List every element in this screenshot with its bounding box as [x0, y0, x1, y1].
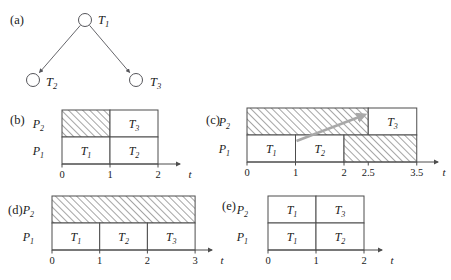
- axis-tick-label: 0: [265, 255, 270, 266]
- axis-tick-label: 1: [97, 255, 102, 266]
- task-node-label: T2: [46, 75, 58, 91]
- axis-tick-label: 2: [155, 169, 160, 180]
- processor-label-p1: P1: [218, 142, 230, 158]
- axis-variable-label: t: [390, 254, 394, 266]
- processor-label-p2: P2: [32, 117, 44, 133]
- task-node-t1: T1: [79, 13, 110, 29]
- processor-label-p2: P2: [218, 115, 230, 131]
- task-node-circle: [79, 14, 92, 27]
- panel-a-label: (a): [10, 13, 24, 27]
- axis-tick-label: 2: [145, 255, 150, 266]
- task-node-label: T1: [98, 13, 109, 29]
- axis-variable-label: t: [188, 168, 192, 180]
- processor-label-p1: P1: [236, 230, 248, 246]
- task-graph-nodes: T1T2T3: [27, 13, 162, 91]
- axis-tick-label: 2: [341, 167, 346, 178]
- gantt-panels: (b)P2T3P1T1T2012t(c)P2T3P1T1T20122.53.5t…: [8, 108, 446, 266]
- panel-e-schedule: (e)P2T1T3P1T1T2012t: [222, 196, 394, 266]
- axis-variable-label: t: [442, 166, 446, 178]
- processor-label-p2: P2: [22, 203, 34, 219]
- panel-a-task-graph: (a) T1T2T3: [10, 13, 161, 91]
- task-node-label: T3: [150, 75, 161, 91]
- task-graph-edges: [40, 25, 130, 72]
- axis-tick-label: 0: [244, 167, 249, 178]
- axis-tick-label: 1: [293, 167, 298, 178]
- axis-tick-label: 0: [59, 169, 64, 180]
- task-edge-t1-to-t3: [90, 25, 130, 72]
- panel-d-schedule: (d)P2P1T1T2T30123t: [8, 196, 224, 266]
- panel-b-label: (b): [10, 113, 25, 127]
- panel-d-label: (d): [8, 203, 23, 217]
- axis-variable-label: t: [220, 254, 224, 266]
- figure-root: (a) T1T2T3 (b)P2T3P1T1T2012t(c)P2T3P1T1T…: [0, 0, 451, 280]
- axis-tick-label: 2.5: [362, 167, 375, 178]
- task-node-t2: T2: [27, 74, 58, 92]
- task-node-circle: [130, 74, 143, 87]
- scheduling-figure: (a) T1T2T3 (b)P2T3P1T1T2012t(c)P2T3P1T1T…: [0, 0, 451, 280]
- task-edge-t1-to-t2: [40, 25, 81, 72]
- processor-label-p1: P1: [22, 230, 34, 246]
- axis-tick-label: 1: [107, 169, 112, 180]
- idle-block: [52, 196, 195, 223]
- idle-block: [344, 135, 417, 162]
- axis-tick-label: 3: [192, 255, 197, 266]
- panel-c-schedule: (c)P2T3P1T1T20122.53.5t: [206, 108, 446, 178]
- axis-tick-label: 3.5: [410, 167, 423, 178]
- task-node-t3: T3: [130, 74, 162, 92]
- panel-b-schedule: (b)P2T3P1T1T2012t: [10, 110, 192, 180]
- axis-tick-label: 0: [49, 255, 54, 266]
- task-node-circle: [27, 74, 40, 87]
- processor-label-p1: P1: [32, 144, 44, 160]
- axis-tick-label: 2: [361, 255, 366, 266]
- panel-e-label: (e): [222, 199, 236, 213]
- idle-block: [62, 110, 110, 137]
- processor-label-p2: P2: [236, 203, 248, 219]
- axis-tick-label: 1: [313, 255, 318, 266]
